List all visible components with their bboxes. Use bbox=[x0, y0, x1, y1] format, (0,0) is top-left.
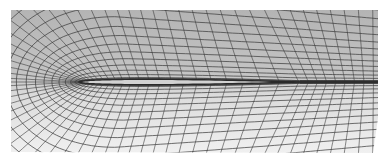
mesh-line bbox=[383, 2, 388, 82]
airfoil-mesh-diagram bbox=[0, 0, 392, 162]
mesh-line bbox=[383, 82, 388, 162]
mesh-figure bbox=[0, 0, 392, 162]
mesh-domain bbox=[0, 0, 388, 162]
